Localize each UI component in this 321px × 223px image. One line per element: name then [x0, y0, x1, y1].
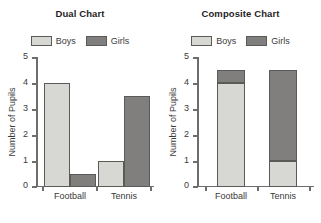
composite-x-tick-left: [205, 186, 207, 191]
composite-chart-y-axis-label: Number of Pupils: [167, 57, 179, 187]
dual-y-tick-label-1: 1: [23, 155, 28, 165]
composite-x-tick-mid: [257, 186, 259, 191]
dual-y-tick-4: 4: [32, 83, 37, 85]
composite-chart-title: Composite Chart: [160, 8, 321, 19]
composite-y-tick-label-1: 1: [184, 155, 189, 165]
dual-chart-panel: Dual Chart Boys Girls Number of Pupils 5…: [0, 0, 160, 223]
composite-y-tick-3: 3: [193, 109, 198, 111]
composite-y-tick-0: 0: [193, 186, 198, 188]
legend-swatch-girls-icon: [246, 36, 267, 46]
dual-chart-y-axis-line: [36, 57, 38, 187]
dual-y-tick-label-0: 0: [23, 180, 28, 190]
dual-chart-title: Dual Chart: [0, 8, 160, 19]
composite-chart-legend: Boys Girls: [160, 36, 321, 46]
composite-y-tick-1: 1: [193, 161, 198, 163]
composite-seg-football-boys: [217, 83, 245, 187]
composite-chart-plot-area: 5 4 3 2 1 0: [197, 57, 310, 187]
legend-swatch-boys-icon: [31, 36, 52, 46]
dual-y-tick-2: 2: [32, 135, 37, 137]
composite-seg-tennis-boys: [269, 161, 297, 187]
figure-container: Dual Chart Boys Girls Number of Pupils 5…: [0, 0, 321, 223]
dual-bar-football-girls: [70, 174, 96, 187]
composite-y-tick-label-5: 5: [184, 51, 189, 61]
dual-x-tick-right: [150, 186, 152, 191]
dual-chart-legend: Boys Girls: [0, 36, 160, 46]
dual-x-category-football: Football: [54, 191, 86, 201]
composite-chart-y-axis-label-text: Number of Pupils: [168, 87, 178, 156]
dual-chart-y-axis-label: Number of Pupils: [6, 57, 18, 187]
dual-y-tick-1: 1: [32, 161, 37, 163]
legend-swatch-girls-icon: [86, 36, 107, 46]
composite-y-tick-label-2: 2: [184, 129, 189, 139]
composite-seg-football-girls: [217, 70, 245, 83]
composite-x-tick-right: [309, 186, 311, 191]
dual-x-tick-left: [42, 186, 44, 191]
composite-chart-y-axis-line: [197, 57, 199, 187]
legend-entry-girls: Girls: [86, 36, 130, 46]
dual-x-category-tennis: Tennis: [111, 191, 137, 201]
composite-seg-tennis-girls: [269, 70, 297, 161]
dual-y-tick-label-4: 4: [23, 77, 28, 87]
dual-x-tick-mid: [96, 186, 98, 191]
dual-chart-y-axis-label-text: Number of Pupils: [7, 87, 17, 156]
dual-y-tick-3: 3: [32, 109, 37, 111]
legend-entry-boys: Boys: [191, 36, 236, 46]
composite-chart-panel: Composite Chart Boys Girls Number of Pup…: [160, 0, 321, 223]
composite-y-tick-4: 4: [193, 83, 198, 85]
composite-y-tick-5: 5: [193, 57, 198, 59]
dual-bar-tennis-boys: [98, 161, 124, 187]
legend-swatch-boys-icon: [191, 36, 212, 46]
composite-y-tick-label-4: 4: [184, 77, 189, 87]
dual-y-tick-label-5: 5: [23, 51, 28, 61]
dual-chart-plot-area: 5 4 3 2 1 0: [36, 57, 150, 187]
legend-label-boys: Boys: [216, 36, 236, 46]
legend-label-girls: Girls: [111, 36, 130, 46]
composite-y-tick-label-0: 0: [184, 180, 189, 190]
composite-y-tick-label-3: 3: [184, 103, 189, 113]
legend-label-girls: Girls: [271, 36, 290, 46]
legend-entry-girls: Girls: [246, 36, 290, 46]
dual-bar-tennis-girls: [124, 96, 150, 187]
composite-x-category-football: Football: [215, 191, 247, 201]
composite-x-category-tennis: Tennis: [270, 191, 296, 201]
dual-y-tick-0: 0: [32, 186, 37, 188]
dual-y-tick-5: 5: [32, 57, 37, 59]
dual-y-tick-label-3: 3: [23, 103, 28, 113]
dual-y-tick-label-2: 2: [23, 129, 28, 139]
composite-y-tick-2: 2: [193, 135, 198, 137]
legend-label-boys: Boys: [56, 36, 76, 46]
legend-entry-boys: Boys: [31, 36, 76, 46]
dual-bar-football-boys: [44, 83, 70, 187]
